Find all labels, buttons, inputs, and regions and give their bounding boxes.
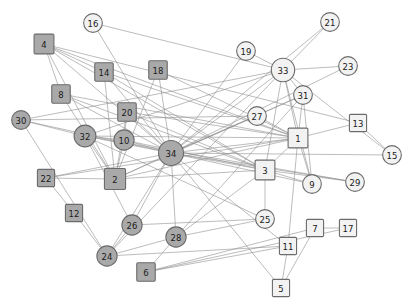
node-label: 25 <box>260 215 271 225</box>
node-label: 16 <box>88 19 99 29</box>
graph-node-3[interactable]: 3 <box>255 160 275 180</box>
node-label: 18 <box>153 66 164 76</box>
network-graph-figure: 1234567891011121314151617181920212223242… <box>0 0 412 305</box>
graph-node-25[interactable]: 25 <box>256 210 275 229</box>
graph-node-21[interactable]: 21 <box>321 13 340 32</box>
node-label: 10 <box>119 136 130 146</box>
node-label: 2 <box>112 175 117 185</box>
graph-node-24[interactable]: 24 <box>97 246 117 266</box>
graph-node-11[interactable]: 11 <box>279 237 296 254</box>
graph-node-28[interactable]: 28 <box>166 227 186 247</box>
node-label: 33 <box>278 66 289 76</box>
graph-node-5[interactable]: 5 <box>272 279 289 296</box>
graph-edge <box>104 72 115 179</box>
graph-node-12[interactable]: 12 <box>65 204 82 221</box>
graph-node-14[interactable]: 14 <box>95 63 113 81</box>
node-label: 15 <box>387 151 398 161</box>
node-label: 31 <box>298 91 309 101</box>
graph-node-15[interactable]: 15 <box>383 146 402 165</box>
node-label: 11 <box>283 242 294 252</box>
node-label: 13 <box>353 119 364 129</box>
graph-node-2[interactable]: 2 <box>104 168 125 189</box>
graph-node-13[interactable]: 13 <box>349 114 366 131</box>
graph-node-10[interactable]: 10 <box>114 130 134 150</box>
graph-node-31[interactable]: 31 <box>294 86 313 105</box>
graph-node-9[interactable]: 9 <box>303 175 322 194</box>
graph-canvas[interactable]: 1234567891011121314151617181920212223242… <box>0 0 412 305</box>
node-label: 32 <box>80 132 91 142</box>
graph-node-29[interactable]: 29 <box>346 173 365 192</box>
graph-node-30[interactable]: 30 <box>12 111 31 130</box>
node-label: 23 <box>343 62 354 72</box>
node-label: 5 <box>278 284 283 294</box>
graph-node-1[interactable]: 1 <box>288 128 308 148</box>
node-label: 28 <box>171 233 182 243</box>
node-label: 22 <box>41 174 52 184</box>
graph-node-23[interactable]: 23 <box>339 57 358 76</box>
graph-node-22[interactable]: 22 <box>37 169 54 186</box>
node-label: 3 <box>262 166 267 176</box>
edge-layer <box>21 22 392 288</box>
graph-node-32[interactable]: 32 <box>74 125 96 147</box>
node-label: 30 <box>16 116 27 126</box>
graph-node-34[interactable]: 34 <box>159 141 184 166</box>
graph-edge <box>127 112 298 138</box>
graph-node-8[interactable]: 8 <box>52 85 70 103</box>
graph-edge <box>176 170 265 237</box>
node-label: 1 <box>295 134 300 144</box>
graph-node-18[interactable]: 18 <box>149 61 167 79</box>
graph-node-17[interactable]: 17 <box>339 219 356 236</box>
node-label: 14 <box>99 68 110 78</box>
graph-node-20[interactable]: 20 <box>118 103 136 121</box>
node-label: 20 <box>122 108 133 118</box>
graph-edge <box>44 44 358 123</box>
node-label: 27 <box>252 112 263 122</box>
graph-node-27[interactable]: 27 <box>248 107 267 126</box>
node-label: 34 <box>166 149 177 159</box>
graph-node-4[interactable]: 4 <box>34 34 54 54</box>
graph-node-26[interactable]: 26 <box>122 215 142 235</box>
node-label: 19 <box>241 47 252 57</box>
node-label: 21 <box>325 18 336 28</box>
node-label: 29 <box>350 178 361 188</box>
graph-edge <box>115 170 265 179</box>
graph-node-19[interactable]: 19 <box>237 42 256 61</box>
node-label: 8 <box>58 90 63 100</box>
node-label: 4 <box>41 40 46 50</box>
node-label: 9 <box>309 180 314 190</box>
graph-edge <box>85 70 283 136</box>
graph-node-16[interactable]: 16 <box>84 14 103 33</box>
graph-node-33[interactable]: 33 <box>271 58 294 81</box>
node-label: 6 <box>143 268 148 278</box>
graph-node-7[interactable]: 7 <box>306 219 323 236</box>
node-label: 17 <box>343 224 354 234</box>
graph-node-6[interactable]: 6 <box>137 263 155 281</box>
node-label: 24 <box>102 252 113 262</box>
node-label: 7 <box>312 224 317 234</box>
node-label: 26 <box>127 221 138 231</box>
node-label: 12 <box>69 209 80 219</box>
